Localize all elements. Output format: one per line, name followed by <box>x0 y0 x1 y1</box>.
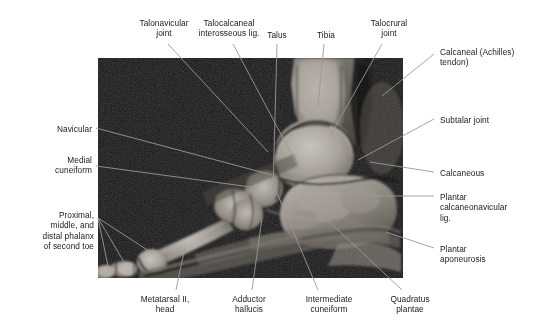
label-plantar-calcaneonavicular-lig: Plantar calcaneonavicular lig. <box>440 192 544 223</box>
label-talus: Talus <box>254 30 300 40</box>
label-adductor-hallucis: Adductor hallucis <box>213 294 285 315</box>
label-navicular: Navicular <box>8 124 92 134</box>
mri-sagittal-foot-scan <box>98 58 403 278</box>
anatomical-figure: Talonavicular joint Talocalcaneal intero… <box>0 0 548 335</box>
label-metatarsal-ii-head: Metatarsal II, head <box>122 294 208 315</box>
label-subtalar-joint: Subtalar joint <box>440 115 536 125</box>
label-plantar-aponeurosis: Plantar aponeurosis <box>440 244 536 265</box>
label-quadratus-plantae: Quadratus plantae <box>372 294 448 315</box>
label-calcaneal-achilles-tendon: Calcaneal (Achilles) tendon) <box>440 47 546 68</box>
label-calcaneous: Calcaneous <box>440 168 536 178</box>
label-medial-cuneiform: Medial cuneiform <box>8 155 92 176</box>
label-tibia: Tibia <box>305 30 347 40</box>
label-proximal-middle-distal-phalanx: Proximal, middle, and distal phalanx of … <box>4 210 94 252</box>
label-intermediate-cuneiform: Intermediate cuneiform <box>285 294 373 315</box>
mri-image-panel <box>98 58 403 278</box>
label-talocrural-joint: Talocrural joint <box>352 18 426 39</box>
